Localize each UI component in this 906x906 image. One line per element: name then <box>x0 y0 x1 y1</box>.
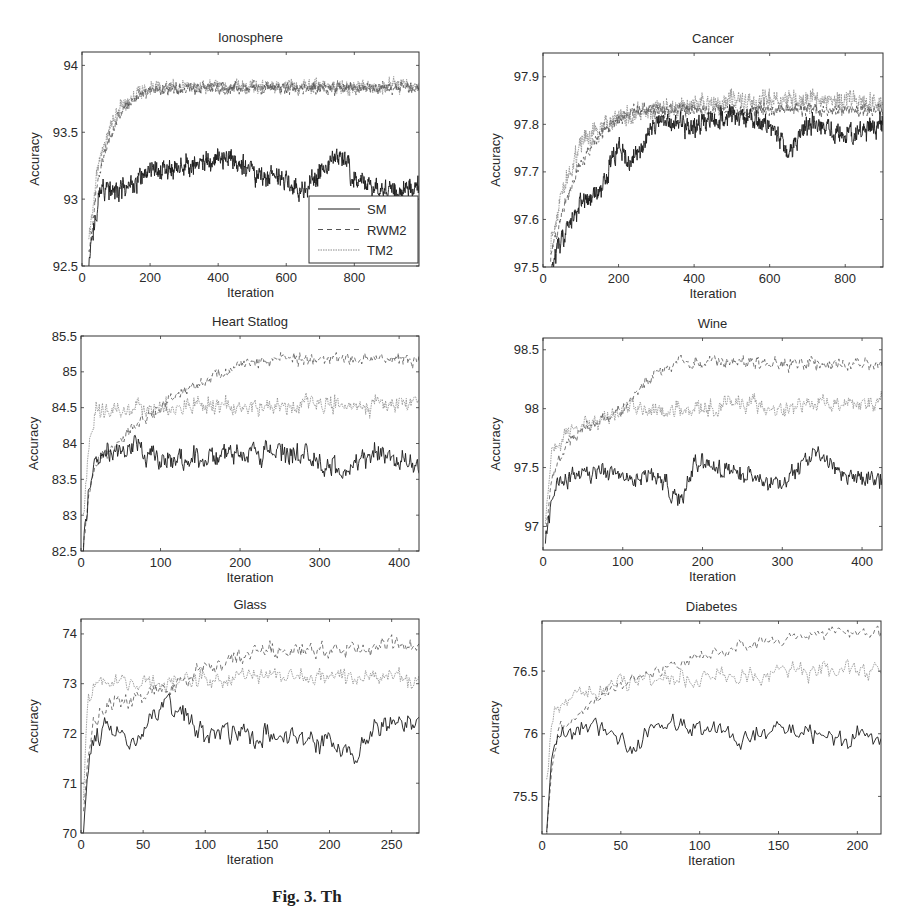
y-tick-label: 94 <box>64 58 78 73</box>
x-tick-label: 0 <box>539 554 546 569</box>
chart-title: Cancer <box>692 31 735 46</box>
x-axis-label: Iteration <box>688 853 735 868</box>
x-tick-label: 150 <box>257 837 279 852</box>
x-tick-label: 400 <box>388 555 410 570</box>
x-tick-label: 200 <box>846 838 868 853</box>
y-tick-label: 97.5 <box>514 260 539 275</box>
x-axis-label: Iteration <box>227 852 274 867</box>
x-axis-label: Iteration <box>227 570 274 585</box>
x-tick-label: 400 <box>851 554 873 569</box>
x-axis-label: Iteration <box>690 286 737 301</box>
chart-title: Ionosphere <box>218 30 283 45</box>
x-tick-label: 0 <box>77 837 84 852</box>
y-tick-label: 85 <box>63 364 77 379</box>
chart-title: Wine <box>698 316 728 331</box>
series-line-tm2 <box>551 89 883 255</box>
series-line-tm2 <box>545 391 882 524</box>
y-axis-label: Accuracy <box>488 133 503 187</box>
x-tick-label: 300 <box>771 554 793 569</box>
legend-label-sm: SM <box>367 202 387 217</box>
x-tick-label: 600 <box>759 271 781 286</box>
figure-caption: Fig. 3. Th <box>272 888 342 905</box>
y-tick-label: 83 <box>63 508 77 523</box>
y-axis-label: Accuracy <box>488 417 503 471</box>
x-tick-label: 50 <box>136 837 150 852</box>
x-tick-label: 800 <box>834 271 856 286</box>
x-tick-label: 100 <box>689 838 711 853</box>
x-tick-label: 0 <box>538 838 545 853</box>
legend: SMRWM2TM2 <box>309 196 418 263</box>
x-tick-label: 100 <box>612 554 634 569</box>
y-tick-label: 75.5 <box>513 789 538 804</box>
legend-label-rwm2: RWM2 <box>367 223 406 238</box>
y-tick-label: 83.5 <box>52 472 77 487</box>
y-tick-label: 84.5 <box>52 400 77 415</box>
y-tick-label: 76 <box>524 726 538 741</box>
y-tick-label: 85.5 <box>52 329 77 344</box>
chart-heart-statlog: 010020030040082.58383.58484.58585.5Heart… <box>26 314 419 585</box>
axes-box <box>542 621 881 834</box>
y-tick-label: 71 <box>63 776 77 791</box>
series-line-tm2 <box>547 660 881 780</box>
x-tick-label: 200 <box>692 554 714 569</box>
y-tick-label: 76.5 <box>513 664 538 679</box>
y-tick-label: 82.5 <box>52 544 77 559</box>
x-tick-label: 400 <box>683 271 705 286</box>
x-tick-label: 300 <box>309 555 331 570</box>
series-line-rwm2 <box>545 355 882 534</box>
y-tick-label: 70 <box>63 826 77 841</box>
x-tick-label: 100 <box>150 555 172 570</box>
y-tick-label: 74 <box>63 626 77 641</box>
x-tick-label: 50 <box>614 838 628 853</box>
series-line-tm2 <box>84 667 420 800</box>
x-axis-label: Iteration <box>227 285 274 300</box>
series-line-tm2 <box>83 393 419 514</box>
x-tick-label: 200 <box>608 271 630 286</box>
y-tick-label: 97.8 <box>514 117 539 132</box>
chart-cancer: 020040060080097.597.697.797.897.9CancerI… <box>488 31 883 301</box>
chart-glass: 0501001502002507071727374GlassIterationA… <box>26 597 419 867</box>
chart-wine: 01002003004009797.59898.5WineIterationAc… <box>488 316 882 584</box>
y-tick-label: 92.5 <box>53 259 78 274</box>
y-tick-label: 97.7 <box>514 164 539 179</box>
y-tick-label: 84 <box>63 436 77 451</box>
x-tick-label: 400 <box>207 270 229 285</box>
y-tick-label: 72 <box>63 726 77 741</box>
chart-title: Glass <box>233 597 267 612</box>
y-axis-label: Accuracy <box>27 132 42 186</box>
series-line-sm <box>547 714 881 832</box>
series-line-rwm2 <box>84 635 420 812</box>
y-tick-label: 98 <box>525 401 539 416</box>
series-line-rwm2 <box>547 626 881 835</box>
x-tick-label: 600 <box>275 270 297 285</box>
x-tick-label: 0 <box>77 555 84 570</box>
x-tick-label: 800 <box>343 270 365 285</box>
y-tick-label: 97.6 <box>514 212 539 227</box>
y-axis-label: Accuracy <box>487 700 502 754</box>
axes-box <box>543 338 882 550</box>
y-tick-label: 97 <box>525 519 539 534</box>
chart-diabetes: 05010015020075.57676.5DiabetesIterationA… <box>487 599 881 868</box>
y-axis-label: Accuracy <box>26 416 41 470</box>
y-tick-label: 93 <box>64 192 78 207</box>
y-tick-label: 97.5 <box>514 460 539 475</box>
x-tick-label: 100 <box>194 837 216 852</box>
series-line-sm <box>545 447 882 544</box>
x-tick-label: 0 <box>539 271 546 286</box>
y-tick-label: 98.5 <box>514 342 539 357</box>
chart-title: Diabetes <box>686 599 738 614</box>
x-tick-label: 200 <box>319 837 341 852</box>
axes-box <box>543 53 883 267</box>
x-axis-label: Iteration <box>689 569 736 584</box>
series-line-sm <box>84 694 420 833</box>
x-tick-label: 250 <box>381 837 403 852</box>
y-axis-label: Accuracy <box>26 699 41 753</box>
y-tick-label: 97.9 <box>514 69 539 84</box>
legend-label-tm2: TM2 <box>367 243 393 258</box>
series-line-sm <box>83 435 419 552</box>
y-tick-label: 93.5 <box>53 125 78 140</box>
x-tick-label: 200 <box>139 270 161 285</box>
x-tick-label: 200 <box>229 555 251 570</box>
chart-title: Heart Statlog <box>212 314 288 329</box>
